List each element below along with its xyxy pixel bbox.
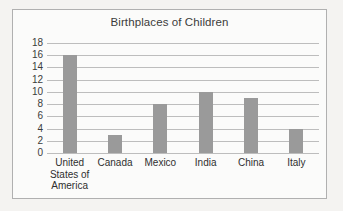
x-tick-label: Mexico [144,157,176,169]
y-tick-label: 16 [32,50,43,60]
bar[interactable] [153,104,167,153]
bar-slot [183,43,228,153]
chart-figure: Birthplaces of Children 181614121086420 … [12,9,327,199]
bars-layer [47,43,319,153]
x-tick-label: United States of America [50,157,89,192]
y-tick-label: 14 [32,62,43,72]
y-tick-label: 2 [37,136,43,146]
y-tick-label: 6 [37,111,43,121]
bar[interactable] [289,129,303,153]
bar-slot [92,43,137,153]
x-tick-label: China [238,157,264,169]
y-tick-label: 18 [32,38,43,48]
bar-slot [47,43,92,153]
y-tick-label: 4 [37,124,43,134]
bar-slot [228,43,273,153]
bar[interactable] [108,135,122,153]
y-tick-label: 12 [32,75,43,85]
x-tick-label: Canada [97,157,132,169]
x-tick-label: India [195,157,217,169]
gridline [47,153,319,154]
bar-slot [274,43,319,153]
plot-area: 181614121086420 United States of America… [47,43,319,153]
y-tick-label: 8 [37,99,43,109]
bar[interactable] [244,98,258,153]
y-tick-label: 10 [32,87,43,97]
x-tick-label: Italy [287,157,305,169]
y-tick-label: 0 [37,148,43,158]
bar[interactable] [63,55,77,153]
bar[interactable] [199,92,213,153]
chart-title: Birthplaces of Children [13,16,326,28]
bar-slot [138,43,183,153]
